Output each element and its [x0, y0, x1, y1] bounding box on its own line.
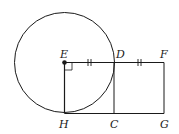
label-f: F [159, 48, 168, 61]
label-c: C [110, 118, 119, 131]
label-h: H [58, 118, 69, 131]
label-e: E [59, 48, 68, 61]
label-g: G [160, 118, 169, 131]
geometry-diagram: E D F H C G [0, 0, 179, 134]
label-d: D [115, 48, 125, 61]
